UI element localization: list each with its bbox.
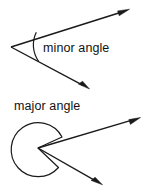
minor-angle-figure: minor angle: [11, 9, 130, 89]
angle-figures-svg: minor angle major angle: [0, 0, 150, 195]
major-angle-label: major angle: [14, 99, 80, 113]
major-angle-upper-ray: [38, 119, 135, 148]
major-angle-upper-arrowhead: [129, 118, 141, 125]
minor-angle-lower-arrowhead: [78, 81, 89, 89]
minor-angle-arc: [33, 32, 38, 61]
major-angle-reflex-arc: [11, 123, 62, 177]
minor-angle-upper-arrowhead: [118, 9, 130, 16]
major-angle-lower-arrowhead: [91, 177, 102, 185]
major-angle-lower-ray: [38, 148, 97, 181]
angle-diagram-root: minor angle major angle: [0, 0, 150, 195]
minor-angle-label: minor angle: [43, 41, 109, 55]
major-angle-figure: major angle: [11, 99, 140, 185]
